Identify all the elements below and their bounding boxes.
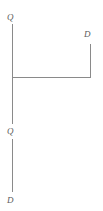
label-q-top: Q <box>7 13 14 22</box>
diagram-canvas: Q Q D D <box>0 0 103 211</box>
label-d-bottom: D <box>7 196 14 205</box>
label-q-middle: Q <box>7 127 14 136</box>
label-d-right: D <box>84 30 91 39</box>
